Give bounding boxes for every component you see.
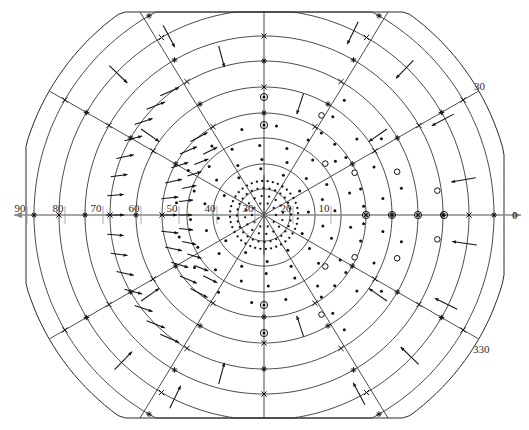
- x-marker: [364, 390, 369, 395]
- vector-arrow: [179, 199, 193, 202]
- star-marker: [395, 289, 401, 295]
- x-marker: [461, 97, 466, 102]
- star-marker: [261, 58, 267, 64]
- dot-marker: [344, 271, 347, 274]
- angular-label-30: 30: [474, 80, 486, 92]
- polar-diagram-canvas: 908070605040302010 030330: [0, 0, 529, 430]
- vector-arrow: [147, 102, 165, 109]
- center-dot: [256, 188, 258, 190]
- dot-marker: [333, 209, 336, 212]
- star-marker: [172, 57, 178, 63]
- center-dot: [259, 248, 261, 250]
- dot-marker: [400, 240, 403, 243]
- vector-arrow: [182, 242, 196, 246]
- star-marker: [173, 263, 179, 269]
- vector-arrow: [347, 22, 358, 44]
- center-dot: [256, 181, 258, 183]
- center-dot: [280, 235, 282, 237]
- dot-marker: [373, 262, 376, 265]
- dot-marker: [333, 143, 336, 146]
- center-dot: [265, 233, 267, 235]
- vector-arrow: [296, 93, 303, 114]
- dot-marker: [321, 225, 324, 228]
- dot-marker: [321, 198, 324, 201]
- vector-arrow: [180, 147, 197, 154]
- center-dot: [229, 210, 231, 212]
- star-marker: [395, 135, 401, 141]
- dot-marker: [348, 191, 351, 194]
- dot-marker: [260, 158, 263, 161]
- radial-tick-label-30: 30: [243, 202, 255, 214]
- center-dot: [265, 248, 267, 250]
- spoke-330deg: [264, 215, 479, 339]
- radial-tick-label-40: 40: [205, 202, 217, 214]
- center-dot: [238, 203, 240, 205]
- vector-arrow: [178, 213, 192, 216]
- star-marker: [376, 411, 382, 417]
- star-marker: [84, 315, 90, 321]
- dot-marker: [258, 144, 261, 147]
- star-marker: [146, 13, 152, 19]
- vector-arrow: [203, 147, 217, 154]
- center-dot: [270, 247, 272, 249]
- dot-marker: [286, 249, 289, 252]
- angular-label-330: 330: [473, 343, 490, 355]
- dot-marker: [284, 298, 287, 301]
- dot-marker: [298, 190, 301, 193]
- center-dot: [296, 223, 298, 225]
- x-marker: [151, 276, 156, 281]
- dot-marker: [325, 183, 328, 186]
- spoke-150deg: [49, 91, 264, 215]
- radial-tick-label-70: 70: [91, 202, 103, 214]
- center-dot: [273, 221, 275, 223]
- center-dot: [236, 235, 238, 237]
- x-marker: [106, 302, 111, 307]
- arrow-head: [148, 118, 152, 121]
- center-dot: [246, 235, 248, 237]
- radial-tick-label-20: 20: [281, 202, 293, 214]
- center-dot: [287, 225, 289, 227]
- star-marker: [389, 212, 395, 218]
- x-marker: [184, 346, 189, 351]
- vector-arrow: [451, 178, 476, 183]
- star-marker: [173, 161, 179, 167]
- open-circle-marker: [394, 169, 400, 175]
- center-dot: [257, 240, 259, 242]
- radial-tick-label-60: 60: [129, 202, 141, 214]
- vector-arrow: [141, 129, 159, 142]
- open-circle-marker: [352, 254, 358, 260]
- dot-marker: [223, 194, 226, 197]
- center-dot: [272, 230, 274, 232]
- arrow-head: [120, 234, 124, 237]
- radial-tick-label-90: 90: [15, 202, 27, 214]
- arrow-head: [161, 325, 165, 328]
- dot-marker: [231, 148, 234, 151]
- arrow-head: [184, 265, 188, 268]
- star-marker: [376, 13, 382, 19]
- center-dot: [251, 214, 253, 216]
- x-marker: [210, 124, 215, 129]
- x-marker: [416, 123, 421, 128]
- star-marker: [128, 289, 134, 295]
- open-circle-marker: [322, 161, 328, 167]
- polar-plot-svg: 908070605040302010 030330: [0, 0, 529, 430]
- center-dot: [253, 197, 255, 199]
- dot-marker: [266, 260, 269, 263]
- x-marker: [159, 390, 164, 395]
- center-dot: [291, 232, 293, 234]
- dot-marker: [240, 265, 243, 268]
- vector-arrow: [117, 154, 134, 159]
- dot-marker: [244, 251, 247, 254]
- dot-marker: [339, 258, 342, 261]
- dot-marker: [373, 166, 376, 169]
- circled-dot-marker-core: [263, 332, 266, 335]
- radial-tick-label-80: 80: [53, 202, 65, 214]
- star-marker: [128, 135, 134, 141]
- center-dot: [241, 187, 243, 189]
- center-dot: [268, 196, 270, 198]
- arrow-head: [451, 180, 455, 183]
- vector-arrow: [111, 173, 128, 177]
- star-marker: [350, 161, 356, 167]
- center-dot: [244, 242, 246, 244]
- dot-marker: [290, 265, 293, 268]
